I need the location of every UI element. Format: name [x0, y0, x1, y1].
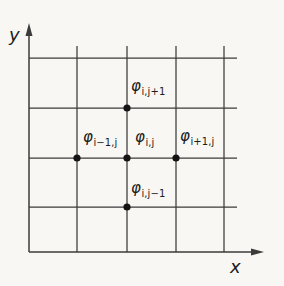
node-label-phi-i-minus-1-j: φi−1,j: [83, 129, 117, 145]
node-label-phi-i-j: φi,j: [135, 129, 154, 145]
node-label-phi-i-plus-1-j: φi+1,j: [180, 128, 214, 144]
phi-subscript: i+1,j: [190, 136, 214, 147]
x-axis-arrow-icon: [251, 249, 264, 256]
phi-subscript: i,j−1: [141, 188, 165, 199]
y-axis-arrow-icon: [26, 23, 33, 36]
grid-node-dot: [123, 154, 130, 161]
phi-symbol: φ: [135, 128, 145, 146]
phi-symbol: φ: [83, 128, 93, 146]
phi-symbol: φ: [131, 179, 141, 197]
y-axis-label: y: [9, 26, 20, 44]
phi-subscript: i,j+1: [141, 86, 165, 97]
phi-symbol: φ: [131, 77, 141, 95]
x-axis-label: x: [230, 258, 241, 276]
node-label-phi-i-j-plus-1: φi,j+1: [131, 78, 165, 94]
phi-subscript: i,j: [145, 137, 154, 148]
grid-node-dot: [123, 203, 130, 210]
grid-node-dot: [172, 154, 179, 161]
grid-node-dot: [73, 154, 80, 161]
node-label-phi-i-j-minus-1: φi,j−1: [131, 180, 165, 196]
grid-node-dot: [123, 104, 130, 111]
phi-symbol: φ: [180, 127, 190, 145]
phi-subscript: i−1,j: [93, 137, 117, 148]
finite-difference-grid-diagram: φi,j+1 φi−1,j φi,j φi+1,j φi,j−1 y x: [0, 0, 284, 286]
